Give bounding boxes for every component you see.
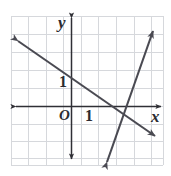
y-axis-unit-label: 1 [59,74,67,90]
grid-lines [11,16,164,166]
graph-canvas [0,0,171,176]
origin-label: O [59,108,70,123]
x-axis-label: x [151,108,160,125]
x-axis-unit-label: 1 [85,108,93,124]
rising-line [107,31,153,162]
coordinate-plane-figure: y x O 1 1 [0,0,171,176]
y-axis-label: y [58,14,66,31]
